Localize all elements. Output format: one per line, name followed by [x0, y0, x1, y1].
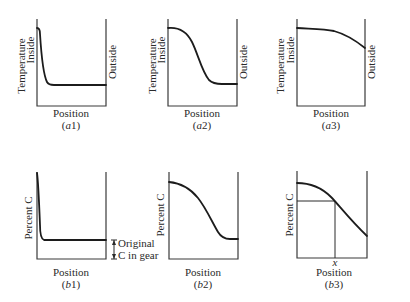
panel-b1: Percent C Original C in gear Position (b… — [22, 172, 159, 291]
inside-label: Inside — [24, 36, 36, 63]
panel-a2: Temperature Inside Outside Position (a2) — [146, 19, 249, 132]
diagram-figure: Temperature Inside Outside Position (a1)… — [0, 0, 410, 302]
temperature-curve — [168, 28, 237, 84]
x-axis-label: Position — [185, 266, 222, 278]
panel-caption: (b1) — [62, 278, 81, 291]
axes-box — [37, 19, 106, 106]
y-axis-label: Percent C — [22, 196, 34, 239]
original-carbon-dimension-marker — [111, 240, 117, 259]
outside-label: Outside — [365, 45, 377, 79]
annotation-c-in-gear: C in gear — [118, 249, 159, 261]
carbon-curve — [169, 182, 238, 239]
x-axis-label: Position — [53, 266, 90, 278]
panel-a1: Temperature Inside Outside Position (a1) — [15, 19, 118, 132]
panel-b2: Percent C Position (b2) — [154, 172, 238, 291]
panel-caption: (a1) — [62, 119, 81, 132]
x-axis-label: Position — [316, 266, 353, 278]
y-axis-label: Percent C — [154, 193, 166, 236]
temperature-curve — [37, 28, 106, 85]
panel-a3: Temperature Inside Outside Position (a3) — [274, 19, 377, 132]
annotation-original: Original — [118, 237, 155, 249]
x-axis-label: Position — [313, 107, 350, 119]
x-axis-label: Position — [53, 107, 90, 119]
panel-caption: (a2) — [193, 119, 212, 132]
carbon-curve — [297, 183, 367, 236]
panel-caption: (b3) — [325, 278, 344, 291]
panel-caption: (b2) — [194, 278, 213, 291]
outside-label: Outside — [237, 45, 249, 79]
inside-label: Inside — [155, 36, 167, 63]
inside-label: Inside — [284, 36, 296, 63]
temperature-curve — [297, 28, 365, 48]
x-axis-label: Position — [184, 107, 221, 119]
panel-b3: Percent C x Position (b3) — [283, 171, 367, 291]
outside-label: Outside — [106, 45, 118, 79]
panel-caption: (a3) — [322, 119, 341, 132]
carbon-curve — [37, 173, 106, 240]
axes-box — [37, 172, 106, 259]
y-axis-label: Percent C — [283, 193, 295, 236]
axes-box — [297, 19, 365, 106]
axes-box — [168, 19, 237, 106]
